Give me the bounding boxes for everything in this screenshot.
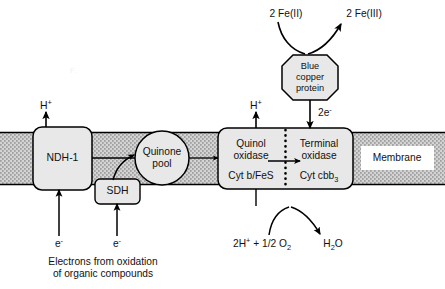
diagram-canvas: [0, 0, 445, 289]
caption-line-2: of organic compounds: [53, 268, 153, 279]
electron-transport-chain-diagram: NDH-1 SDH Quinone pool Quinol oxidase Cy…: [0, 0, 445, 289]
membrane-label: Membrane: [373, 152, 422, 163]
arrow-fe2-to-protein: [278, 22, 305, 54]
complex-label-quinone-pool-line2: pool: [152, 158, 171, 169]
proton-label-left-charge: +: [48, 98, 52, 107]
complex-label-quinone-pool-line1: Quinone: [143, 146, 182, 157]
substrate-label-suffix: + 1/2 O: [250, 238, 287, 249]
electron-label-right-charge: -: [119, 236, 121, 245]
ferrous-iron-label: 2 Fe(II): [270, 8, 303, 19]
proton-label-right: H+: [250, 100, 262, 112]
two-electron-label-text: 2e: [318, 107, 329, 118]
arrow-substrate-to-oxidase: [269, 207, 289, 235]
substrate-label-subscript: 2: [287, 243, 291, 252]
terminal-oxidase-title-line1: Terminal: [300, 138, 339, 149]
two-electron-label-charge: -: [329, 105, 331, 114]
terminal-oxidase-subtitle-prefix: Cyt cbb: [300, 170, 335, 181]
quinol-oxidase-subtitle: Cyt b/FeS: [228, 170, 273, 181]
electron-label-left: e-: [55, 238, 63, 249]
quinol-oxidase-title-line2: oxidase: [233, 150, 268, 161]
proton-label-right-text: H: [250, 100, 258, 111]
substrate-label: 2H+ + 1/2 O2: [233, 238, 291, 249]
water-label-suffix: O: [335, 238, 343, 249]
electron-label-left-charge: -: [61, 236, 63, 245]
proton-label-right-charge: +: [258, 98, 262, 107]
proton-label-left-text: H: [40, 100, 48, 111]
complex-label-sdh: SDH: [107, 185, 129, 197]
ferric-iron-label: 2 Fe(III): [346, 8, 382, 19]
arrow-protein-to-fe3: [308, 24, 341, 54]
quinol-oxidase-title-line1: Quinol: [236, 138, 265, 149]
substrate-label-prefix: 2H: [233, 238, 246, 249]
blue-copper-protein-label-line1: Blue: [301, 61, 319, 71]
two-electron-label: 2e-: [318, 107, 332, 118]
electron-label-right: e-: [113, 238, 121, 249]
proton-label-left: H+: [40, 100, 52, 112]
terminal-oxidase-title-line2: oxidase: [301, 150, 336, 161]
terminal-oxidase-subtitle: Cyt cbb3: [300, 170, 339, 181]
blue-copper-protein-label-line2: copper: [296, 72, 324, 82]
water-label: H2O: [323, 238, 342, 249]
terminal-oxidase-subtitle-subscript: 3: [334, 175, 338, 184]
scan-artifact: F.: [70, 66, 76, 75]
complex-label-ndh1: NDH-1: [47, 152, 79, 164]
blue-copper-protein-label-line3: protein: [296, 83, 324, 93]
caption-line-1: Electrons from oxidation: [48, 256, 157, 267]
arrow-oxidase-to-water: [291, 207, 320, 234]
